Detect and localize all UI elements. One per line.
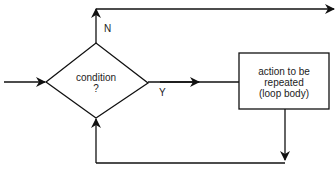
condition-label: condition ? (66, 72, 126, 94)
condition-question-mark: ? (66, 83, 126, 94)
action-text-line1: action to be (239, 66, 329, 77)
action-text-line2: repeated (239, 77, 329, 88)
no-label: N (104, 23, 111, 34)
yes-label: Y (159, 87, 166, 98)
action-label: action to be repeated (loop body) (239, 66, 329, 99)
action-text-line3: (loop body) (239, 88, 329, 99)
condition-text: condition (66, 72, 126, 83)
